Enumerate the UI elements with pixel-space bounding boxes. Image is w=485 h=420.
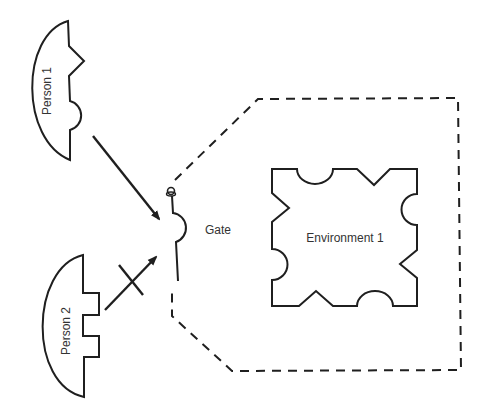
gate-label: Gate <box>205 223 231 237</box>
gate-hinge-icon <box>168 188 175 195</box>
environment-1-label: Environment 1 <box>306 231 384 245</box>
gate-node[interactable]: Gate <box>167 188 232 282</box>
arrow-person2-to-gate <box>105 257 156 310</box>
gate-shape <box>172 196 186 281</box>
person-2-node[interactable]: Person 2 <box>43 255 99 397</box>
environment-1-node[interactable]: Environment 1 <box>272 169 417 306</box>
person-2-label: Person 2 <box>59 307 73 355</box>
arrow-person1-to-gate <box>93 136 159 219</box>
person-1-node[interactable]: Person 1 <box>32 21 84 160</box>
person-1-label: Person 1 <box>40 67 54 115</box>
diagram-canvas: Person 1 Person 2 Gate Environment 1 <box>0 0 485 420</box>
